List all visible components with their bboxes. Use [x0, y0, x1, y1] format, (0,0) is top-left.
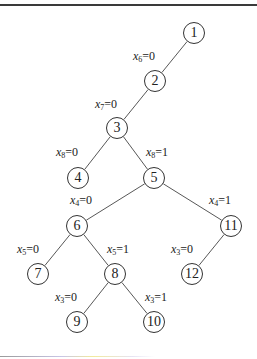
edge-3-4 — [85, 137, 110, 170]
tree-node-3: 3 — [106, 117, 128, 139]
edge-label: x7=0 — [95, 98, 117, 112]
tree-node-1: 1 — [183, 22, 205, 44]
tree-node-2: 2 — [144, 70, 166, 92]
edge-5-6 — [86, 184, 144, 220]
edge-1-2 — [162, 42, 187, 73]
edge-2-3 — [124, 90, 148, 120]
edge-label: x8=1 — [146, 146, 168, 160]
edge-label: x6=0 — [133, 50, 155, 64]
edge-label: x4=1 — [209, 194, 231, 208]
edge-label: x4=0 — [70, 194, 92, 208]
edge-11-12 — [199, 235, 224, 266]
tree-node-8: 8 — [104, 263, 126, 285]
edge-label: x3=1 — [145, 291, 167, 305]
tree-edges — [0, 0, 257, 359]
edge-3-5 — [124, 137, 148, 169]
edge-label: x3=0 — [171, 243, 193, 257]
edge-6-7 — [45, 235, 70, 266]
tree-node-11: 11 — [220, 215, 242, 237]
edge-label: x5=0 — [17, 243, 39, 257]
tree-node-9: 9 — [66, 311, 88, 333]
edge-label: x3=0 — [55, 291, 77, 305]
tree-node-4: 4 — [67, 167, 89, 189]
tree-node-10: 10 — [143, 311, 165, 333]
edge-label: x5=1 — [107, 243, 129, 257]
tree-node-5: 5 — [143, 167, 165, 189]
tree-node-12: 12 — [181, 263, 203, 285]
edge-6-8 — [84, 235, 108, 266]
tree-node-6: 6 — [66, 215, 88, 237]
edge-8-9 — [84, 283, 108, 314]
edge-8-10 — [122, 283, 147, 314]
edge-label: x8=0 — [56, 146, 78, 160]
bottom-rule — [0, 356, 155, 357]
tree-node-7: 7 — [27, 263, 49, 285]
